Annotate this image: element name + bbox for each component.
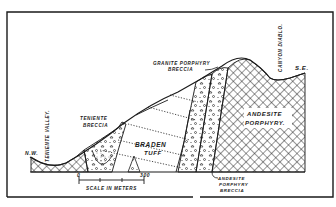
braden-tuff-label-2: TUFF [144,150,162,156]
andesite-breccia-label-3: BRECCIA [220,188,244,193]
teniente-breccia-label-1: TENIENTE [80,116,108,121]
andesite-porphyry-label-1: ANDESITE [246,111,283,117]
canyon-diablo-label: CANYON DIABLO. [278,24,283,72]
scale-bar [79,176,144,184]
scale-start-label: 0 [77,172,80,178]
scale-caption: SCALE IN METERS [86,186,137,191]
scale-end-label: 300 [140,172,150,178]
andesite-porphyry-label-2: PORPHYRY. [245,120,285,126]
valley-andesite-region [31,150,88,172]
teniente-breccia-label-2: BRECCIA [83,123,108,128]
nw-label: N.W. [25,150,38,156]
granite-breccia-label-1: GRANITE PORPHYRY [153,61,211,66]
geological-cross-section: 0 300 SCALE IN METERS N.W. S.E. TENIENTE… [0,0,336,207]
andesite-breccia-label-1: ANDESITE [217,176,245,181]
teniente-valley-label: TENIENTE VALLEY. [45,110,50,162]
teniente-breccia-region [84,122,126,172]
granite-breccia-label-2: BRECCIA [168,67,193,72]
braden-tuff-label-1: BRADEN [135,141,166,148]
andesite-breccia-label-2: PORPHYRY [219,182,249,187]
se-label: S.E. [295,65,309,71]
small-breccia-lens [128,156,140,172]
